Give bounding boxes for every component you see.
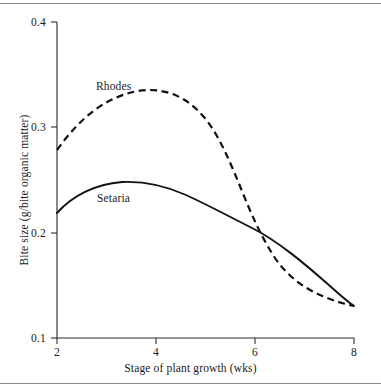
series-label-setaria: Setaria (97, 192, 130, 204)
x-tick-marks (57, 338, 354, 344)
x-tick-label-2: 6 (252, 346, 258, 358)
x-axis-title: Stage of plant growth (wks) (0, 362, 381, 374)
figure-page: 0.4 0.3 0.2 0.1 2 4 6 8 Stage of plant g… (0, 0, 381, 392)
x-tick-label-3: 8 (351, 346, 357, 358)
page-rule-bottom (0, 383, 381, 384)
y-axis-title: Bite size (g/bite organic matter) (18, 80, 30, 300)
chart-plot-area (0, 6, 381, 380)
line-chart: 0.4 0.3 0.2 0.1 2 4 6 8 Stage of plant g… (0, 6, 381, 380)
x-tick-label-1: 4 (153, 346, 159, 358)
page-rule-top (0, 3, 381, 4)
series-label-rhodes: Rhodes (96, 80, 131, 92)
y-tick-label-3: 0.1 (8, 332, 46, 344)
x-tick-label-0: 2 (54, 346, 60, 358)
y-tick-label-0: 0.4 (8, 16, 46, 28)
y-tick-marks (51, 22, 57, 338)
